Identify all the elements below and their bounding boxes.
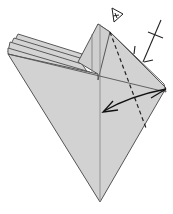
repeat-behind-mark xyxy=(112,8,123,22)
edge-hinge-mark xyxy=(134,20,163,62)
origami-diagram xyxy=(0,0,173,214)
